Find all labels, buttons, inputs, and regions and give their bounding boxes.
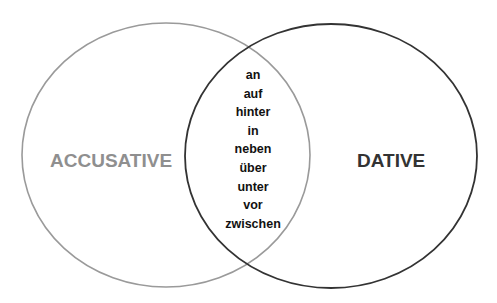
preposition-item: auf [213, 85, 293, 104]
preposition-item: zwischen [213, 215, 293, 234]
preposition-item: hinter [213, 103, 293, 122]
preposition-item: über [213, 159, 293, 178]
preposition-item: unter [213, 178, 293, 197]
venn-diagram: ACCUSATIVE DATIVE an auf hinter in neben… [0, 0, 497, 303]
preposition-item: an [213, 66, 293, 85]
preposition-item: neben [213, 140, 293, 159]
accusative-set-label: ACCUSATIVE [50, 150, 172, 172]
preposition-item: vor [213, 196, 293, 215]
intersection-preposition-list: an auf hinter in neben über unter vor zw… [213, 66, 293, 233]
preposition-item: in [213, 122, 293, 141]
dative-set-label: DATIVE [357, 150, 425, 172]
